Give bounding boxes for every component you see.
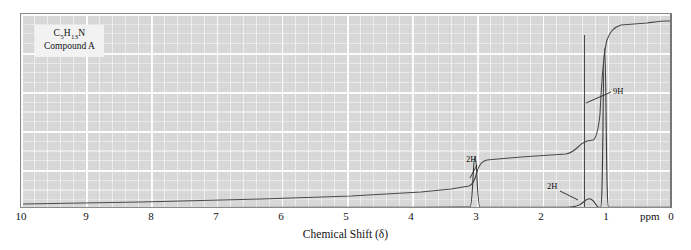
integration-curve (23, 21, 671, 204)
plot-area (20, 13, 672, 208)
spectrum-traces (21, 14, 672, 208)
tall-peak-spike (584, 35, 585, 207)
compound-label-box: C5H13N Compound A (35, 25, 104, 57)
tick-6: 6 (278, 210, 284, 222)
peak-label-2h-upfield-of-2.4: 2H (466, 154, 476, 164)
tick-10: 10 (16, 210, 27, 222)
peak-label-2h-near-1.2: 2H (547, 181, 557, 191)
tick-5: 5 (343, 210, 349, 222)
tick-2: 2 (538, 210, 544, 222)
tick-8: 8 (148, 210, 154, 222)
x-axis-tick-labels: 10 9 8 7 6 5 4 3 2 1 0 (20, 208, 672, 224)
proton-nmr-spectrum-figure: C5H13N Compound A 9H 2H 2H 10 9 8 7 6 5 … (0, 0, 691, 250)
tick-3: 3 (473, 210, 479, 222)
molecular-formula: C5H13N (44, 28, 95, 41)
peak-label-9h: 9H (613, 86, 623, 96)
tick-0: 0 (668, 210, 674, 222)
tick-7: 7 (213, 210, 219, 222)
tick-4: 4 (408, 210, 414, 222)
axis-unit-ppm: ppm (640, 210, 660, 222)
spectrum-trace (23, 48, 671, 208)
tick-1: 1 (603, 210, 609, 222)
x-axis-title: Chemical Shift (δ) (0, 228, 691, 240)
compound-name: Compound A (44, 41, 95, 53)
tick-9: 9 (83, 210, 89, 222)
